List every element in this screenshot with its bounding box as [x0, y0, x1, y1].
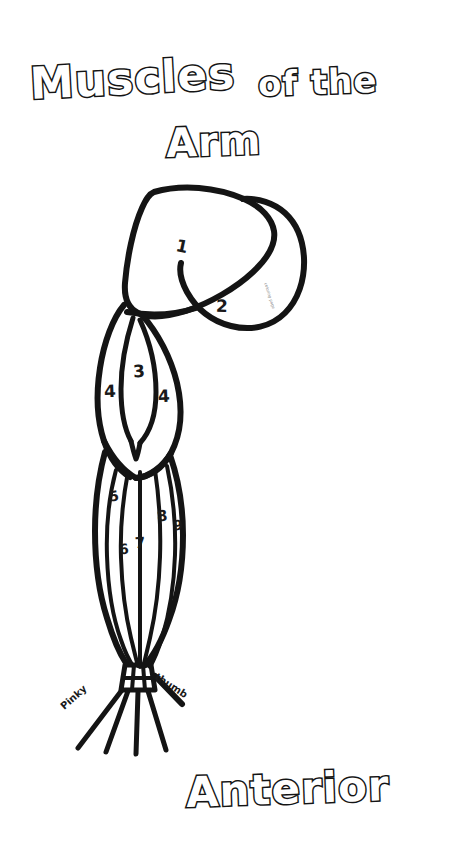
worksheet-page: Muscles of the Arm: [0, 0, 455, 865]
muscle-number-3: 3: [132, 361, 145, 382]
forearm-strip-2: [121, 472, 138, 666]
muscle-number-9: 9: [172, 517, 183, 534]
muscle-number-4-medial: 4: [157, 386, 170, 407]
biceps-medial-edge: [140, 320, 156, 443]
forearm-strip-5: [150, 466, 175, 667]
forearm-strip-4: [143, 470, 160, 667]
finger-middle: [136, 692, 138, 754]
biceps-lateral-edge: [121, 318, 133, 441]
pectoralis-lower-edge: [127, 308, 196, 314]
muscle-number-6: 6: [118, 541, 129, 558]
footer-view-label: Anterior: [185, 761, 390, 817]
arm-diagram-svg: [0, 0, 455, 865]
muscle-number-4-lateral: 4: [104, 381, 117, 401]
biceps-tendon: [131, 441, 140, 459]
muscle-number-7: 7: [134, 534, 146, 553]
deltoid-outline: [125, 188, 274, 317]
muscle-number-8: 8: [156, 507, 168, 526]
finger-index: [148, 691, 166, 750]
muscle-number-2: 2: [216, 296, 229, 316]
